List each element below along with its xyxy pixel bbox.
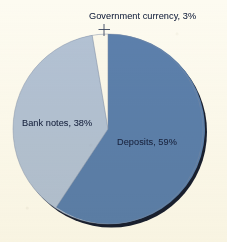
slice-label-deposits: Deposits, 59% [117,137,177,148]
slice-label-government-currency: Government currency, 3% [89,11,196,22]
pie-chart-figure: Government currency, 3% Bank notes, 38% … [0,0,227,242]
slice-label-bank-notes: Bank notes, 38% [22,118,92,129]
